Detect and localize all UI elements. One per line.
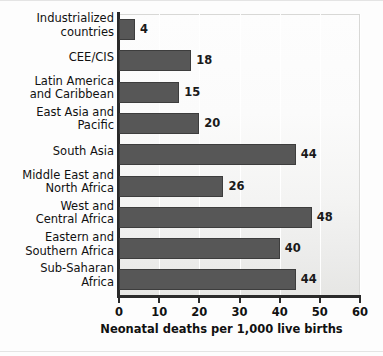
bar-value-label: 18 <box>196 51 212 70</box>
category-label: West and Central Africa <box>0 200 114 227</box>
bar[interactable] <box>119 82 179 103</box>
x-tick-label-40: 40 <box>265 305 295 319</box>
bar-row: CEE/CIS18 <box>0 45 383 76</box>
bar-row: Middle East and North Africa26 <box>0 171 383 202</box>
category-label: CEE/CIS <box>0 51 114 65</box>
category-label: South Asia <box>0 145 114 159</box>
x-tick-mark-0 <box>118 297 120 303</box>
bar-value-label: 44 <box>301 270 317 289</box>
bar-row: Industrialized countries4 <box>0 14 383 45</box>
bar-value-label: 48 <box>317 208 333 227</box>
bar-value-label: 44 <box>301 145 317 164</box>
x-tick-label-60: 60 <box>345 305 375 319</box>
x-tick-label-0: 0 <box>104 305 134 319</box>
bar-row: South Asia44 <box>0 139 383 170</box>
x-tick-mark-60 <box>359 297 361 303</box>
x-tick-label-50: 50 <box>305 305 335 319</box>
bar[interactable] <box>119 113 199 134</box>
x-tick-mark-40 <box>279 297 281 303</box>
category-label: Latin America and Caribbean <box>0 75 114 102</box>
x-tick-label-30: 30 <box>225 305 255 319</box>
bar-row: Sub-Saharan Africa44 <box>0 264 383 295</box>
bar[interactable] <box>119 144 296 165</box>
bar[interactable] <box>119 176 223 197</box>
bar[interactable] <box>119 238 280 259</box>
x-tick-mark-30 <box>239 297 241 303</box>
bar-value-label: 20 <box>204 114 220 133</box>
x-tick-label-10: 10 <box>144 305 174 319</box>
bar-value-label: 40 <box>285 239 301 258</box>
category-label: Middle East and North Africa <box>0 169 114 196</box>
bar-value-label: 15 <box>184 83 200 102</box>
x-axis-title: Neonatal deaths per 1,000 live births <box>0 322 383 336</box>
scan-edge-top <box>0 0 383 1</box>
bar[interactable] <box>119 19 135 40</box>
bar-value-label: 4 <box>140 20 148 39</box>
category-label: Eastern and Southern Africa <box>0 231 114 258</box>
x-tick-label-20: 20 <box>184 305 214 319</box>
scan-edge-bottom <box>0 351 383 352</box>
x-tick-mark-50 <box>319 297 321 303</box>
category-label: Sub-Saharan Africa <box>0 262 114 289</box>
x-tick-mark-20 <box>198 297 200 303</box>
category-label: East Asia and Pacific <box>0 106 114 133</box>
bar-row: East Asia and Pacific20 <box>0 108 383 139</box>
bar-value-label: 26 <box>228 177 244 196</box>
bar[interactable] <box>119 207 312 228</box>
bar-row: Eastern and Southern Africa40 <box>0 233 383 264</box>
bar[interactable] <box>119 269 296 290</box>
category-label: Industrialized countries <box>0 12 114 39</box>
bar-row: West and Central Africa48 <box>0 202 383 233</box>
bar-chart-figure: Industrialized countries4CEE/CIS18Latin … <box>0 0 383 356</box>
bar[interactable] <box>119 50 191 71</box>
bar-row: Latin America and Caribbean15 <box>0 77 383 108</box>
x-tick-mark-10 <box>158 297 160 303</box>
